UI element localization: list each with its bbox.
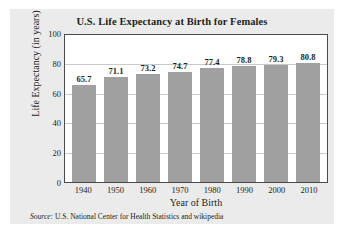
bar-value-label: 78.8 — [237, 55, 252, 65]
y-axis-title: Life Expectancy (in years) — [30, 0, 41, 139]
bar-1940[interactable] — [72, 85, 96, 182]
plot-inner: 65.7 71.1 73.2 74.7 — [65, 35, 327, 182]
y-tick-label: 20 — [31, 148, 61, 158]
x-tick-label: 1950 — [99, 185, 131, 197]
bar-value-label: 79.3 — [269, 54, 284, 64]
bar-1950[interactable] — [104, 77, 128, 182]
bar-value-label: 80.8 — [301, 52, 316, 62]
bar-value-label: 74.7 — [173, 61, 188, 71]
source-label: Source: — [30, 212, 53, 221]
bar-slot: 79.3 — [260, 35, 292, 182]
x-axis-ticks: 1940 1950 1960 1970 1980 1990 2000 2010 — [64, 185, 328, 197]
plot-area: 65.7 71.1 73.2 74.7 — [64, 34, 328, 183]
x-tick-label: 1940 — [67, 185, 99, 197]
bar-1980[interactable] — [200, 68, 224, 182]
figure-page: · · · · · · U.S. Life Expectancy at Birt… — [0, 0, 344, 233]
x-tick-label: 1960 — [132, 185, 164, 197]
bar-slot: 73.2 — [132, 35, 164, 182]
bar-slot: 74.7 — [164, 35, 196, 182]
x-tick-label: 1970 — [164, 185, 196, 197]
bar-slot: 65.7 — [68, 35, 100, 182]
bar-value-label: 71.1 — [109, 66, 124, 76]
bar-2000[interactable] — [264, 65, 288, 182]
chart-title: U.S. Life Expectancy at Birth for Female… — [10, 16, 334, 27]
bar-1990[interactable] — [232, 66, 256, 182]
bar-value-label: 77.4 — [205, 57, 220, 67]
bar-slot: 71.1 — [100, 35, 132, 182]
bar-1960[interactable] — [136, 74, 160, 182]
x-axis-title: Year of Birth — [64, 197, 328, 208]
chart-figure-panel: U.S. Life Expectancy at Birth for Female… — [10, 9, 334, 224]
x-tick-label: 2000 — [261, 185, 293, 197]
x-tick-label: 2010 — [293, 185, 325, 197]
bar-slot: 77.4 — [196, 35, 228, 182]
x-tick-label: 1980 — [196, 185, 228, 197]
bar-slot: 80.8 — [292, 35, 324, 182]
source-note: Source: U.S. National Center for Health … — [30, 212, 223, 221]
bar-slot: 78.8 — [228, 35, 260, 182]
bar-1970[interactable] — [168, 72, 192, 182]
bar-2010[interactable] — [296, 63, 320, 182]
bar-value-label: 65.7 — [77, 74, 92, 84]
bars-layer: 65.7 71.1 73.2 74.7 — [65, 35, 327, 182]
page-text-remnant: · · · · · · — [46, 0, 176, 7]
bar-value-label: 73.2 — [141, 63, 156, 73]
x-tick-label: 1990 — [228, 185, 260, 197]
y-tick-label: 0 — [31, 178, 61, 188]
source-text: U.S. National Center for Health Statisti… — [55, 212, 224, 221]
